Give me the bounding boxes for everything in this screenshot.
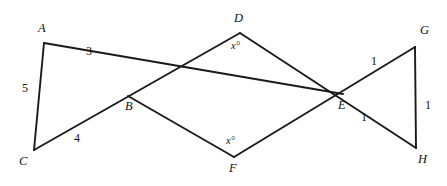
length-label-ac: 5 (22, 82, 28, 94)
segment-gh (415, 47, 416, 148)
segment-dh (240, 33, 416, 148)
segment-ac (34, 43, 44, 150)
length-label-cb: 4 (74, 132, 80, 144)
vertex-label-c: C (19, 155, 27, 168)
segment-cd (34, 33, 240, 150)
segment-fg (234, 47, 415, 157)
vertex-label-a: A (38, 22, 46, 35)
vertex-label-h: H (418, 153, 427, 166)
angle-label-d: x° (231, 41, 240, 52)
length-label-eh: 1 (361, 111, 367, 123)
segment-bf (128, 96, 234, 157)
vertex-label-b: B (125, 100, 133, 113)
angle-label-f: x° (226, 136, 235, 147)
geometry-figure: ABCDEFGH534111x°x° (0, 0, 447, 186)
length-label-eg: 1 (371, 55, 377, 67)
vertex-label-f: F (229, 162, 237, 175)
length-label-ab: 3 (86, 45, 92, 57)
vertex-label-d: D (234, 12, 243, 25)
vertex-label-g: G (420, 24, 429, 37)
figure-canvas (0, 0, 447, 186)
vertex-label-e: E (338, 99, 346, 112)
length-label-gh: 1 (425, 99, 431, 111)
